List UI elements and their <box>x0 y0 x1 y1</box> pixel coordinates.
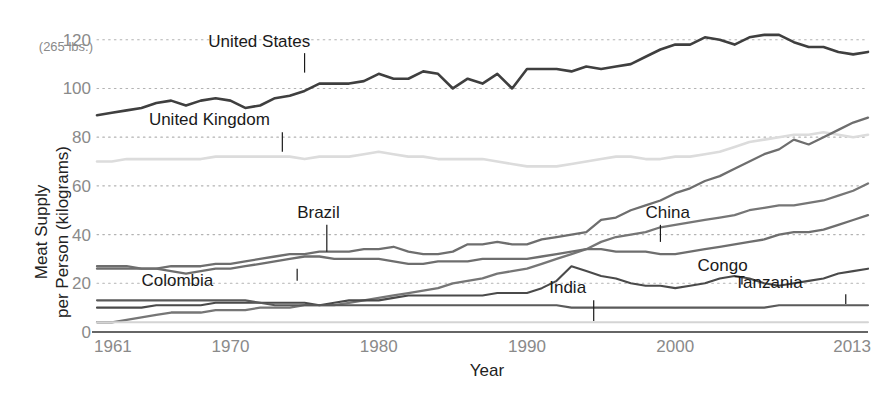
x-tick-label-1970: 1970 <box>212 337 250 356</box>
series-label-china: China <box>646 203 691 222</box>
x-axis-ticks: 196119701980199020002013 <box>94 337 871 356</box>
series-label-colombia: Colombia <box>141 271 213 290</box>
series-label-united-kingdom: United Kingdom <box>149 110 270 129</box>
y-tick-label-100: 100 <box>63 79 91 98</box>
x-tick-label-1990: 1990 <box>508 337 546 356</box>
y-tick-label-60: 60 <box>72 177 91 196</box>
x-tick-label-1961: 1961 <box>94 337 132 356</box>
x-tick-label-1980: 1980 <box>360 337 398 356</box>
lbs-annotation: (265 lbs.) <box>39 39 93 54</box>
series-labels: United StatesUnited KingdomBrazilChinaCo… <box>141 32 803 297</box>
y-tick-label-20: 20 <box>72 274 91 293</box>
series-line-china <box>97 183 868 322</box>
series-label-brazil: Brazil <box>297 203 340 222</box>
series-label-united-states: United States <box>208 32 310 51</box>
x-tick-label-2013: 2013 <box>833 337 871 356</box>
x-axis-title: Year <box>470 361 505 380</box>
chart-svg: 020406080100120 196119701980199020002013… <box>0 0 895 393</box>
meat-supply-chart: 020406080100120 196119701980199020002013… <box>0 0 895 393</box>
series-label-india: India <box>549 278 586 297</box>
y-axis-title-line2: per Person (kilograms) <box>53 146 72 318</box>
x-tick-label-2000: 2000 <box>656 337 694 356</box>
gridlines <box>97 40 868 284</box>
y-tick-label-0: 0 <box>82 323 91 342</box>
series-label-tanzania: Tanzania <box>735 273 804 292</box>
y-axis-title-line1: Meat Supply <box>32 184 51 279</box>
y-tick-label-40: 40 <box>72 226 91 245</box>
y-tick-label-80: 80 <box>72 128 91 147</box>
